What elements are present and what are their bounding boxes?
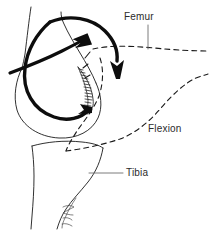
- dashed-femur-superior-border: [93, 46, 208, 51]
- femur-label: Femur: [124, 11, 154, 22]
- knee-flexion-figure: Femur Flexion Tibia: [0, 0, 209, 241]
- roll-arrow-icon: [50, 18, 124, 79]
- motion-tick-1: [85, 52, 90, 58]
- flexed-femur-dashed-outline: [66, 46, 208, 151]
- tibia-lateral-border: [57, 148, 103, 229]
- signature-stroke-4: [62, 224, 72, 226]
- glide-arrowhead: [72, 33, 92, 50]
- tibia-medial-border: [31, 146, 34, 229]
- tibia-plateau-line: [32, 141, 103, 148]
- anatomical-illustration: [0, 0, 209, 241]
- tibia-label: Tibia: [126, 167, 148, 178]
- artist-signature-mark: [62, 198, 76, 228]
- flexion-label: Flexion: [148, 123, 182, 134]
- roll-arrowhead: [110, 60, 124, 79]
- glide-arrow-shaft: [10, 41, 81, 73]
- tibia-outline-group: [31, 141, 103, 229]
- motion-tick-3: [85, 75, 90, 78]
